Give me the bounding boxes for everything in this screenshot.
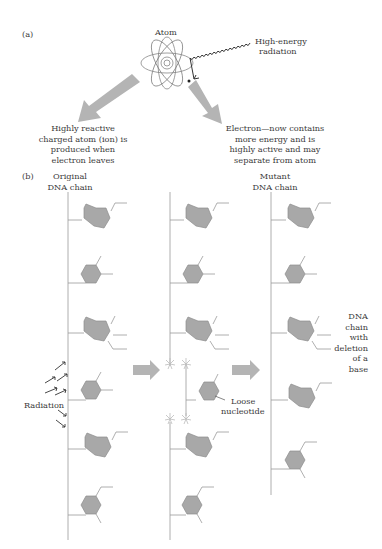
deletion-label-line: with [320, 332, 368, 343]
diagram-graphics [0, 0, 382, 549]
process-arrow-1 [133, 360, 160, 380]
deletion-label-line: chain [320, 322, 368, 333]
mutant-dna-chain [271, 192, 290, 495]
electron-caption: Electron—now contains more energy and is… [220, 123, 330, 165]
original-chain-label-line: Original [40, 171, 100, 182]
mutant-chain-label-line: DNA chain [245, 182, 305, 193]
deletion-label-line: deletion [320, 343, 368, 354]
broken-dna-chain [170, 192, 196, 540]
radiation-label: Radiation [24, 400, 64, 411]
electron-caption-line: separate from atom [220, 155, 330, 166]
deletion-label-line: base [320, 364, 368, 375]
electron-dot [188, 80, 191, 83]
ion-caption: Highly reactive charged atom (ion) is pr… [28, 123, 138, 165]
arrow-to-electron [188, 80, 222, 124]
arrow-to-ion [78, 74, 140, 122]
radiation-arrows-icon [45, 362, 67, 427]
ion-caption-line: charged atom (ion) is [28, 134, 138, 145]
deletion-label-line: DNA [320, 311, 368, 322]
loose-nucleotide-line: nucleotide [221, 406, 265, 416]
ion-caption-line: Highly reactive [28, 123, 138, 134]
electron-caption-line: highly active and may [220, 144, 330, 155]
break-spark-icon [165, 358, 191, 424]
radiation-wave-icon [190, 43, 250, 79]
mutant-chain-label: Mutant DNA chain [245, 171, 305, 192]
loose-nucleotide-line: Loose [221, 396, 265, 406]
deletion-label-line: of a [320, 353, 368, 364]
panel-a-label: (a) [22, 29, 33, 40]
original-chain-label-line: DNA chain [40, 182, 100, 193]
atom-label: Atom [155, 27, 177, 38]
loose-nucleotide-label: Loose nucleotide [221, 396, 265, 416]
original-chain-label: Original DNA chain [40, 171, 100, 192]
ion-caption-line: produced when [28, 144, 138, 155]
ion-caption-line: electron leaves [28, 155, 138, 166]
radiation-label-1: High-energy [255, 36, 307, 47]
radiation-label-2: radiation [259, 46, 297, 57]
deletion-label: DNA chain with deletion of a base [320, 311, 368, 374]
mutant-chain-label-line: Mutant [245, 171, 305, 182]
original-dna-chain [68, 192, 86, 540]
electron-caption-line: Electron—now contains [220, 123, 330, 134]
atom-icon [141, 35, 193, 90]
electron-caption-line: more energy and is [220, 134, 330, 145]
process-arrow-2 [232, 360, 260, 380]
panel-b-label: (b) [22, 171, 34, 182]
